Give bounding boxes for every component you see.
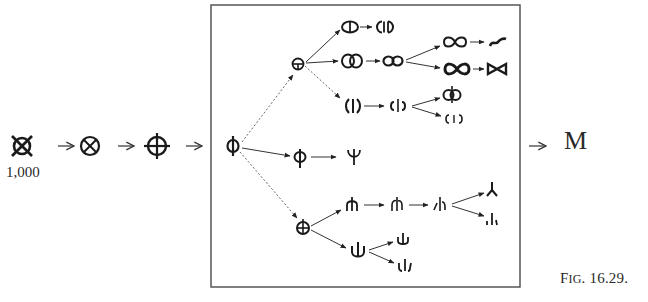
bowtie-icon [488, 64, 506, 74]
psi-broken-icon [399, 259, 411, 271]
arch-with-stem-icon [347, 197, 357, 211]
infinity-icon [384, 57, 403, 66]
result-letter: M [564, 126, 587, 156]
circle-with-cross-icon [144, 133, 170, 159]
c-i-reversed-c-icon [446, 115, 462, 123]
psi-small-icon [398, 233, 408, 245]
broken-arch-with-stem-icon [392, 197, 402, 211]
circle-with-vertical-bar-icon [342, 22, 358, 33]
three-strokes-icon [487, 213, 497, 225]
s-curve-icon [490, 39, 506, 46]
circle-with-saltire-icon [81, 137, 99, 155]
caption-smallcaps: IG [569, 272, 582, 286]
split-circle-with-bar-icon [377, 22, 393, 33]
start-count-label: 1,000 [6, 164, 40, 181]
split-arch-with-stem-icon [434, 197, 445, 211]
parenthesized-bar-icon [346, 99, 360, 113]
figure-caption: FIG. 16.29. [560, 270, 628, 287]
bowtie-thick-icon [445, 64, 469, 74]
phi-open-icon [295, 149, 306, 168]
stage-box [211, 5, 520, 287]
circle-with-bar-icon [293, 59, 304, 70]
u-with-stem-icon [352, 242, 364, 257]
c-bar-reversed-c-icon [391, 99, 405, 112]
phi-icon [228, 136, 239, 156]
circle-with-plus-stem-icon [297, 219, 309, 234]
infinity-loops-icon [444, 38, 466, 47]
caption-number: . 16.29. [582, 270, 629, 286]
caption-prefix: F [560, 270, 569, 286]
circle-pair-with-stem-icon [444, 86, 461, 103]
inverted-y-icon [487, 182, 497, 196]
circle-with-saltire-and-ticks-icon [12, 136, 32, 156]
double-circle-icon [342, 55, 362, 68]
psi-icon [348, 149, 360, 165]
evolution-diagram [0, 0, 648, 302]
